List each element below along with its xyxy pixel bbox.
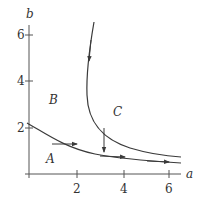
region-label-c: C <box>113 105 122 119</box>
y-tick-4: 4 <box>17 74 25 88</box>
arrow-right-lower-curve-2 <box>147 161 169 162</box>
x-axis <box>25 170 181 178</box>
y-tick-2: 2 <box>17 121 25 135</box>
region-label-b: B <box>48 93 58 107</box>
x-tick-6: 6 <box>165 182 173 196</box>
x-tick-4: 4 <box>120 182 128 196</box>
x-tick-2: 2 <box>73 182 81 196</box>
y-axis <box>25 25 33 178</box>
y-axis-label: b <box>26 7 34 21</box>
arrow-right-lower-curve-1 <box>100 156 125 157</box>
region-label-a: A <box>45 152 55 166</box>
upper-boundary-curve <box>87 22 181 157</box>
phase-diagram: 6 4 2 2 4 6 b a A B C <box>0 0 200 204</box>
x-axis-label: a <box>186 167 193 181</box>
y-tick-6: 6 <box>17 28 25 42</box>
